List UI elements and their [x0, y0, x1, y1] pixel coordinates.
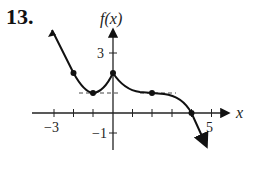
function-graph: 3 −1 −3 5 x f(x) [0, 0, 260, 172]
x-tick-neg3: −3 [44, 120, 59, 135]
y-tick-neg1: −1 [92, 126, 107, 141]
y-axis-label: f(x) [100, 10, 122, 28]
x-tick-5: 5 [206, 120, 213, 135]
y-tick-3: 3 [97, 46, 104, 61]
function-curve [52, 30, 206, 145]
x-axis-label: x [235, 104, 243, 121]
